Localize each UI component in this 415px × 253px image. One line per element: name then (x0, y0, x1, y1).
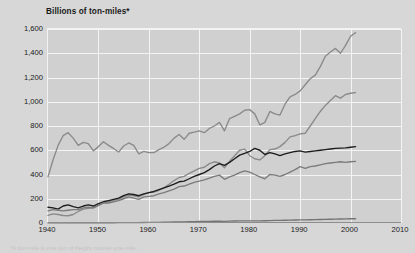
chart-figure: Billions of ton-miles* 02004006008001,00… (0, 0, 415, 253)
y-tick-label: 1,600 (24, 24, 43, 33)
x-tick-label: 1940 (39, 225, 56, 234)
y-tick-label: 1,200 (24, 72, 43, 81)
series-line-rail (48, 33, 356, 177)
y-tick-label: 1,400 (24, 48, 43, 57)
series-line-truck (48, 93, 356, 216)
axis-title: Billions of ton-miles* (46, 7, 130, 16)
gridline-vertical (401, 29, 402, 223)
y-tick-label: 800 (30, 121, 43, 130)
series-container (48, 29, 401, 223)
series-line-pipeline (48, 147, 356, 209)
series-line-water (48, 161, 356, 210)
x-axis-baseline (48, 222, 401, 223)
x-tick-label: 2000 (341, 225, 358, 234)
y-tick-label: 400 (30, 169, 43, 178)
x-tick-label: 1980 (240, 225, 257, 234)
x-tick-label: 1970 (190, 225, 207, 234)
x-tick-label: 1990 (291, 225, 308, 234)
footnote: *A ton-mile is one ton of freight moved … (10, 245, 137, 251)
y-tick-label: 600 (30, 145, 43, 154)
x-tick-label: 1950 (89, 225, 106, 234)
y-tick-label: 200 (30, 193, 43, 202)
plot-inner (48, 29, 401, 223)
x-tick-label: 1960 (139, 225, 156, 234)
y-tick-label: 1,000 (24, 96, 43, 105)
plot-area (47, 28, 401, 223)
x-tick-label: 2010 (392, 225, 409, 234)
